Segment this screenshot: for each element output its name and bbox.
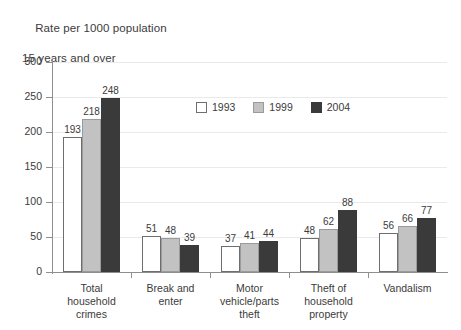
category-label-line: household <box>52 295 131 308</box>
category-separator-tick <box>368 272 369 278</box>
bar-group: 486288 <box>289 62 368 272</box>
bar-value-label: 56 <box>383 220 394 231</box>
category-label-line: property <box>289 308 368 321</box>
y-axis-tick-label: 100 <box>0 195 42 207</box>
legend-swatch <box>253 102 264 113</box>
legend-item-1993: 1993 <box>196 101 235 113</box>
bar-group: 374144 <box>210 62 289 272</box>
category-label-line: enter <box>131 295 210 308</box>
bar: 48 <box>161 238 180 272</box>
category-label-line: household <box>289 295 368 308</box>
x-axis-line <box>52 272 448 273</box>
y-axis-tick-label: 250 <box>0 90 42 102</box>
bar: 48 <box>300 238 319 272</box>
legend-label: 2004 <box>327 101 350 113</box>
bar-value-label: 39 <box>184 232 195 243</box>
legend-label: 1993 <box>212 101 235 113</box>
bar: 193 <box>63 137 82 272</box>
category-label-line: Break and <box>131 282 210 295</box>
y-axis-tick-label: 150 <box>0 160 42 172</box>
bar-value-label: 51 <box>146 223 157 234</box>
category-separator-tick <box>210 272 211 278</box>
chart-title: Rate per 1000 population <box>35 22 167 34</box>
bar: 56 <box>379 233 398 272</box>
bar-group: 514839 <box>131 62 210 272</box>
bar-value-label: 218 <box>83 106 100 117</box>
bar-value-label: 66 <box>402 213 413 224</box>
bar-value-label: 44 <box>263 228 274 239</box>
category-label: Motorvehicle/partstheft <box>210 282 289 321</box>
bar: 44 <box>259 241 278 272</box>
category-label-line: Vandalism <box>368 282 447 295</box>
category-label-line: Theft of <box>289 282 368 295</box>
bar: 62 <box>319 229 338 272</box>
bar: 88 <box>338 210 357 272</box>
y-axis-tick-label: 200 <box>0 125 42 137</box>
bar-value-label: 41 <box>244 230 255 241</box>
y-axis-tick <box>46 272 52 273</box>
bar-chart: Rate per 1000 population 15 years and ov… <box>0 0 461 330</box>
category-label: Break andenter <box>131 282 210 308</box>
category-label-line: Total <box>52 282 131 295</box>
bar: 218 <box>82 119 101 272</box>
y-axis-tick-label: 300 <box>0 55 42 67</box>
legend-item-1999: 1999 <box>253 101 292 113</box>
bar: 77 <box>417 218 436 272</box>
bar-value-label: 48 <box>304 225 315 236</box>
bar: 66 <box>398 226 417 272</box>
legend-item-2004: 2004 <box>311 101 350 113</box>
category-label: Totalhouseholdcrimes <box>52 282 131 321</box>
y-axis-tick-label: 0 <box>0 265 42 277</box>
category-separator-tick <box>131 272 132 278</box>
bar-value-label: 193 <box>64 124 81 135</box>
legend-label: 1999 <box>269 101 292 113</box>
category-label-line: theft <box>210 308 289 321</box>
category-label: Theft ofhouseholdproperty <box>289 282 368 321</box>
category-label-line: Motor <box>210 282 289 295</box>
bar-value-label: 88 <box>342 197 353 208</box>
bar-value-label: 77 <box>421 205 432 216</box>
bar: 51 <box>142 236 161 272</box>
bar: 37 <box>221 246 240 272</box>
bar: 248 <box>101 98 120 272</box>
bar-groups: 193218248514839374144486288566677 <box>52 62 447 272</box>
category-label-line: crimes <box>52 308 131 321</box>
category-separator-tick <box>289 272 290 278</box>
bar-group: 193218248 <box>52 62 131 272</box>
bar: 41 <box>240 243 259 272</box>
y-axis-tick-label: 50 <box>0 230 42 242</box>
legend: 199319992004 <box>196 101 350 113</box>
bar: 39 <box>180 245 199 272</box>
bar-value-label: 48 <box>165 225 176 236</box>
category-label: Vandalism <box>368 282 447 295</box>
category-label-line: vehicle/parts <box>210 295 289 308</box>
bar-value-label: 62 <box>323 216 334 227</box>
legend-swatch <box>311 102 322 113</box>
bar-value-label: 37 <box>225 233 236 244</box>
bar-value-label: 248 <box>102 85 119 96</box>
bar-group: 566677 <box>368 62 447 272</box>
legend-swatch <box>196 102 207 113</box>
